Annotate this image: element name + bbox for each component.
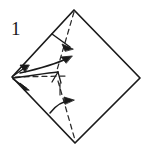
step-number-label: 1 xyxy=(11,19,21,38)
origami-diagram: 1 xyxy=(0,0,147,150)
paper-outline xyxy=(12,10,140,143)
origami-figure-svg xyxy=(0,0,147,150)
